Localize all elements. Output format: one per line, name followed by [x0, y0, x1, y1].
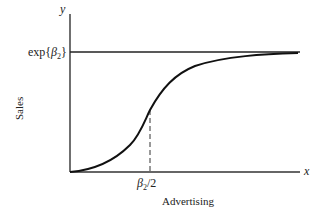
sales-curve — [70, 53, 298, 172]
inflection-marker-label: β2/2 — [137, 177, 156, 192]
asymptote-label: exp{β2} — [28, 46, 67, 61]
y-axis-symbol: y — [60, 3, 65, 15]
asymptote-suffix: } — [61, 45, 67, 59]
plot-area — [0, 0, 332, 215]
y-axis-title: Sales — [14, 97, 25, 120]
x-axis-symbol: x — [304, 165, 309, 177]
asymptote-prefix: exp{ — [28, 45, 51, 59]
x-axis-title: Advertising — [162, 196, 214, 207]
marker-suffix: /2 — [147, 176, 156, 190]
